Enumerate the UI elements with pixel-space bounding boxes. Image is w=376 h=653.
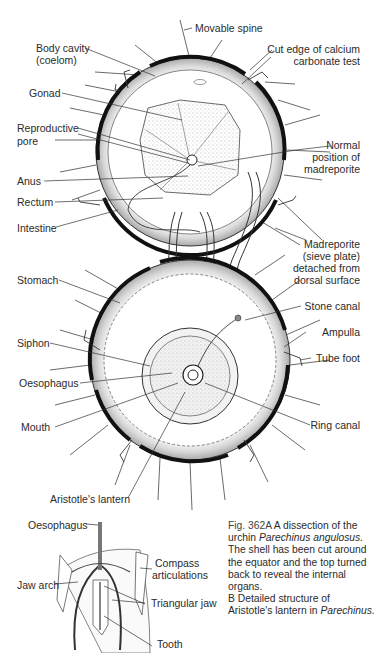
caption-text-2: The shell has been cut around the equato… [228,544,367,592]
label-movable-spine: Movable spine [195,22,263,34]
label-stone-canal: Stone canal [305,300,360,312]
caption-figure-number: Fig. 362A [228,520,272,531]
label-normal-position-line2: position of [312,151,360,163]
label-b-jaw-arch: Jaw arch [17,579,59,591]
caption-species-1: Parechinus angulosus. [259,532,363,543]
label-madreporite-line3: detached from [293,262,360,274]
label-ampulla: Ampulla [322,326,360,338]
label-madreporite-line2: (sieve plate) [303,250,360,262]
label-b-oesophagus: Oesophagus [28,519,88,531]
label-b-triangular-jaw: Triangular jaw [151,597,217,609]
caption-text-3: Detailed structure of Aristotle's lanter… [228,593,330,616]
lower-shell [90,258,290,462]
label-b-tooth: Tooth [157,638,183,650]
label-normal-position-line1: Normal [326,139,360,151]
label-ring-canal: Ring canal [310,419,360,431]
label-reproductive-pore-line2: pore [17,135,38,147]
label-madreporite-line1: Madreporite [304,238,360,250]
figure-caption: Fig. 362A A dissection of the urchin Par… [228,520,376,618]
label-stomach: Stomach [17,274,58,286]
label-tube-foot: Tube foot [316,352,360,364]
caption-species-2: Parechinus. [320,605,374,616]
label-oesophagus: Oesophagus [19,377,79,389]
label-madreporite-line4: dorsal surface [294,274,360,286]
label-body-cavity-line2: (coelom) [36,54,77,66]
label-cut-edge-line1: Cut edge of calcium [267,43,360,55]
label-intestine: Intestine [17,222,57,234]
label-siphon: Siphon [17,337,50,349]
label-b-compass-line2: articulations [152,569,208,581]
caption-part-b: B [228,593,235,604]
label-cut-edge-line2: carbonate test [293,55,360,67]
label-rectum: Rectum [17,196,53,208]
upper-shell [96,57,285,255]
aristotles-lantern-detail [57,522,150,653]
label-gonad: Gonad [29,87,61,99]
label-reproductive-pore-line1: Reproductive [17,122,79,134]
label-aristotles-lantern: Aristotle's lantern [50,493,130,505]
label-mouth: Mouth [21,421,50,433]
label-body-cavity-line1: Body cavity [36,42,90,54]
label-b-compass-line1: Compass [155,557,199,569]
label-anus: Anus [17,175,41,187]
label-normal-position-line3: madreporite [304,163,360,175]
